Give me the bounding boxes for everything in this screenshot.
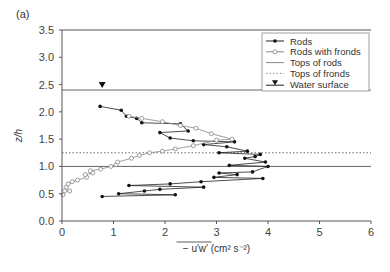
fronds-marker xyxy=(127,114,131,118)
x-tick-label: 2 xyxy=(162,226,168,238)
fronds-marker xyxy=(215,138,219,142)
fronds-marker xyxy=(178,124,182,128)
x-axis-title: − u′w′ (cm² s⁻²) xyxy=(183,243,250,254)
legend: RodsRods with frondsTops of rodsTops of … xyxy=(262,33,369,91)
rods-marker xyxy=(217,151,221,155)
rods-legend-marker-icon xyxy=(273,39,277,43)
y-tick-label: 3.5 xyxy=(39,24,54,36)
stress-profile-chart: 01234560.00.51.01.52.02.53.03.5− u′w′ (c… xyxy=(0,0,390,272)
rods-marker xyxy=(202,185,206,189)
legend-label: Rods xyxy=(290,36,312,47)
rods-marker xyxy=(261,177,265,181)
x-tick-label: 5 xyxy=(316,226,322,238)
x-tick-label: 3 xyxy=(213,226,219,238)
rods-marker xyxy=(186,129,190,133)
fronds-marker xyxy=(116,160,120,164)
rods-marker xyxy=(251,170,255,174)
x-tick-label: 6 xyxy=(368,226,374,238)
fronds-marker xyxy=(75,178,79,182)
legend-label: Rods with fronds xyxy=(290,46,361,57)
rods-marker xyxy=(228,164,232,168)
rods-marker xyxy=(258,153,262,157)
y-tick-label: 2.0 xyxy=(39,106,54,118)
y-axis-title: z/h xyxy=(13,128,24,143)
fronds-marker xyxy=(140,116,144,120)
x-tick-label: 4 xyxy=(265,226,271,238)
rods-marker xyxy=(217,171,221,175)
fronds-marker xyxy=(99,167,103,171)
fronds-marker xyxy=(63,189,67,193)
rods-marker xyxy=(158,188,162,192)
legend-label: Tops of rods xyxy=(290,57,342,68)
rods-marker xyxy=(168,136,172,140)
rods-marker xyxy=(174,193,178,197)
fronds-marker xyxy=(70,180,74,184)
fronds-marker xyxy=(230,137,234,141)
rods-marker xyxy=(266,165,270,169)
rods-marker xyxy=(246,149,250,153)
rods-marker xyxy=(127,184,131,188)
y-tick-label: 3.0 xyxy=(39,51,54,63)
fronds-marker xyxy=(68,189,72,193)
legend-label: Water surface xyxy=(290,79,349,90)
fronds-marker xyxy=(148,151,152,155)
rods-marker xyxy=(143,189,147,193)
y-tick-label: 1.5 xyxy=(39,133,54,145)
data-series xyxy=(61,105,270,199)
fronds-marker xyxy=(83,173,87,177)
y-tick-label: 1.0 xyxy=(39,160,54,172)
x-tick-label: 0 xyxy=(59,226,65,238)
rods-marker xyxy=(119,108,123,112)
legend-label: Tops of fronds xyxy=(290,68,350,79)
rods-marker xyxy=(140,121,144,125)
rods-marker xyxy=(235,173,239,177)
y-tick-label: 0.0 xyxy=(39,215,54,227)
water-surface-marker-icon xyxy=(99,82,106,88)
rods-marker xyxy=(168,182,172,186)
rods-marker xyxy=(225,145,229,149)
fronds-legend-marker-icon xyxy=(273,50,277,54)
fronds-marker xyxy=(209,132,213,136)
rods-marker xyxy=(253,155,257,159)
rods-marker xyxy=(100,195,104,199)
y-tick-label: 2.5 xyxy=(39,79,54,91)
rods-marker xyxy=(98,105,102,109)
fronds-marker xyxy=(160,149,164,153)
fronds-marker xyxy=(160,120,164,124)
rods-marker xyxy=(199,180,203,184)
rods-marker xyxy=(264,160,268,164)
fronds-marker xyxy=(88,169,92,173)
rods-marker xyxy=(243,156,247,160)
rods-marker xyxy=(212,176,216,180)
rods-marker xyxy=(117,192,121,196)
fronds-marker xyxy=(66,182,70,186)
fronds-marker xyxy=(191,144,195,148)
rods-line xyxy=(100,106,268,196)
fronds-marker xyxy=(109,164,113,168)
rods-marker xyxy=(192,139,196,143)
fronds-marker xyxy=(173,147,177,151)
rods-marker xyxy=(158,131,162,135)
y-tick-label: 0.5 xyxy=(39,188,54,200)
x-tick-label: 1 xyxy=(110,226,116,238)
fronds-marker xyxy=(137,154,141,158)
reference-lines xyxy=(62,82,371,166)
fronds-marker xyxy=(130,156,134,160)
fronds-marker xyxy=(194,126,198,130)
fronds-line xyxy=(63,116,232,195)
